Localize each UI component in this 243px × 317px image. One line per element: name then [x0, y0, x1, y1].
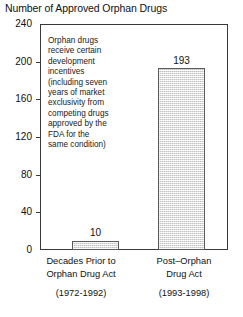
- x-label-line2: Drug Act: [135, 268, 233, 281]
- y-axis: 240 200 160 120 80 40 0: [0, 24, 40, 250]
- annotation-line: same condition): [48, 140, 130, 150]
- annotation-text-block: Orphan drugs receive certain development…: [48, 36, 130, 150]
- bar-value-decades-prior: 10: [72, 227, 119, 239]
- x-label-line2: Orphan Drug Act: [32, 268, 130, 281]
- annotation-line: approved by the: [48, 119, 130, 129]
- y-tick-label: 80: [21, 168, 32, 181]
- x-label-decades-prior: Decades Prior to Orphan Drug Act (1972-1…: [32, 255, 130, 300]
- annotation-line: (including seven: [48, 78, 130, 88]
- annotation-line: development: [48, 57, 130, 67]
- annotation-line: exclusivity from: [48, 98, 130, 108]
- bar-decades-prior[interactable]: [72, 241, 119, 250]
- y-tick-label: 240: [15, 17, 32, 30]
- x-label-years: (1993-1998): [135, 287, 233, 300]
- y-tick-label: 40: [21, 205, 32, 218]
- annotation-line: Orphan drugs: [48, 36, 130, 46]
- x-label-post-orphan: Post–Orphan Drug Act (1993-1998): [135, 255, 233, 300]
- x-label-line1: Post–Orphan: [135, 255, 233, 268]
- annotation-line: competing drugs: [48, 109, 130, 119]
- annotation-line: receive certain: [48, 46, 130, 56]
- x-label-line1: Decades Prior to: [32, 255, 130, 268]
- y-tick-label: 200: [15, 55, 32, 68]
- y-tick-label: 160: [15, 92, 32, 105]
- y-tick-label: 120: [15, 130, 32, 143]
- bar-post-orphan[interactable]: [158, 68, 205, 250]
- chart-title: Number of Approved Orphan Drugs: [5, 2, 167, 15]
- annotation-line: FDA for the: [48, 130, 130, 140]
- annotation-line: years of market: [48, 88, 130, 98]
- bar-value-post-orphan: 193: [158, 55, 205, 67]
- bar-chart: Number of Approved Orphan Drugs 240 200 …: [0, 0, 243, 317]
- x-label-years: (1972-1992): [32, 287, 130, 300]
- x-axis-labels: Decades Prior to Orphan Drug Act (1972-1…: [40, 255, 228, 311]
- annotation-line: incentives: [48, 67, 130, 77]
